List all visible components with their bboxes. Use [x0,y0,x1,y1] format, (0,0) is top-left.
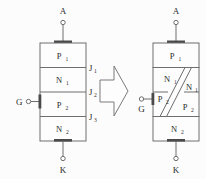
right-layer-n1-left-sub: 1 [174,79,177,85]
right-layer-p2-right-base: P [183,102,188,112]
left-junction-label-j2: J 2 [89,87,97,98]
right-layer-p2-left-base: P [158,94,163,104]
figure-canvas: A P 1 N 1 P 2 N [0,0,206,179]
thyristor-structure-diagram: A P 1 N 1 P 2 N [0,0,206,179]
left-junction-j2-sub: 2 [94,92,97,98]
left-gate-terminal-group[interactable]: G [16,95,41,109]
right-gate-terminal-node[interactable] [139,97,143,101]
left-layer-n2-base: N [56,124,62,134]
left-gate-terminal-node[interactable] [26,99,30,103]
left-anode-terminal-group[interactable]: A [60,6,67,42]
right-layer-n1-right-base: N [186,82,192,92]
right-layer-p2-left-sub: 2 [166,99,169,105]
right-layer-n1-right-sub: 1 [195,87,198,93]
right-anode-terminal-group[interactable]: A [173,6,180,42]
left-junction-j3-base: J [89,112,93,122]
transform-arrow-group [100,66,128,116]
right-layer-block-p1 [153,43,199,68]
left-device-group: A P 1 N 1 P 2 N [16,6,97,175]
right-layer-n2-base: N [171,124,177,134]
right-layer-p2-right-sub: 2 [191,107,194,113]
left-gate-label: G [16,97,23,107]
left-layer-n1-sub: 1 [66,80,69,86]
left-layer-p2-base: P [57,100,62,110]
right-layer-p1-sub: 1 [179,56,182,62]
right-anode-terminal-node[interactable] [174,20,178,24]
right-cathode-terminal-node[interactable] [174,156,178,160]
left-layer-n2-sub: 2 [66,129,69,135]
right-cathode-terminal-group[interactable]: K [173,141,180,175]
right-layer-n2-sub: 2 [181,129,184,135]
right-gate-contact-bar [152,93,155,105]
right-gate-label: G [138,104,145,114]
left-layer-p1-sub: 1 [66,56,69,62]
left-cathode-terminal-group[interactable]: K [60,141,67,175]
right-layer-n1-left-base: N [164,74,170,84]
left-anode-label: A [60,6,67,16]
right-arrow-icon [100,66,128,116]
left-anode-terminal-node[interactable] [61,20,65,24]
left-junction-j3-sub: 3 [94,117,97,123]
right-device-group: A P 1 N 1 [138,6,199,175]
right-anode-label: A [173,6,180,16]
right-gate-terminal-group[interactable]: G [138,93,154,114]
left-layer-p2-sub: 2 [66,105,69,111]
left-junction-j1-base: J [89,63,93,73]
left-junction-label-j3: J 3 [89,112,97,123]
right-layer-p1-base: P [170,51,175,61]
left-layer-p1-base: P [57,51,62,61]
left-layer-n1-base: N [56,75,62,85]
right-cathode-label: K [173,165,180,175]
left-cathode-label: K [60,165,67,175]
left-junction-label-j1: J 1 [89,63,97,74]
left-gate-contact-bar [39,95,42,109]
left-junction-j2-base: J [89,87,93,97]
left-cathode-terminal-node[interactable] [61,156,65,160]
left-junction-j1-sub: 1 [94,68,97,74]
